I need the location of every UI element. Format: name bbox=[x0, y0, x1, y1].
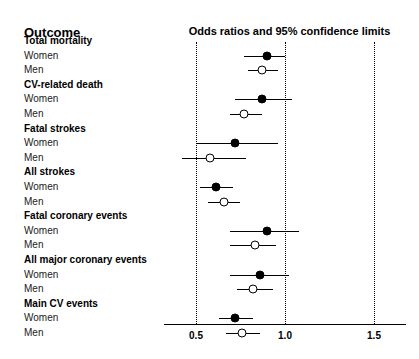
axis-tick-label: 1.5 bbox=[367, 330, 381, 341]
stratum-label: Men bbox=[24, 153, 43, 163]
stratum-label: Men bbox=[24, 109, 43, 119]
outcome-group-label: Fatal strokes bbox=[24, 124, 86, 134]
odds-ratio-marker-filled bbox=[211, 183, 220, 192]
axis-tick-label: 0.5 bbox=[189, 330, 203, 341]
odds-ratio-marker-filled bbox=[256, 270, 265, 279]
stratum-label: Men bbox=[24, 328, 43, 338]
outcome-group-label: CV-related death bbox=[24, 80, 103, 90]
odds-ratio-marker-filled bbox=[231, 139, 240, 148]
outcome-label-column: Outcome Total mortalityWomenMenCV-relate… bbox=[0, 0, 160, 359]
stratum-label: Women bbox=[24, 182, 58, 192]
stratum-label: Women bbox=[24, 313, 58, 323]
stratum-label: Men bbox=[24, 65, 43, 75]
stratum-label: Men bbox=[24, 197, 43, 207]
x-axis-line bbox=[164, 324, 406, 325]
odds-ratio-marker-open bbox=[206, 153, 215, 162]
odds-ratio-marker-filled bbox=[263, 51, 272, 60]
outcome-group-label: Fatal coronary events bbox=[24, 211, 127, 221]
odds-ratio-marker-open bbox=[248, 285, 257, 294]
stratum-label: Women bbox=[24, 226, 58, 236]
outcome-group-label: Main CV events bbox=[24, 299, 98, 309]
odds-ratio-marker-open bbox=[240, 110, 249, 119]
outcome-group-label: All major coronary events bbox=[24, 255, 147, 265]
stratum-label: Women bbox=[24, 138, 58, 148]
axis-tick-label: 1.0 bbox=[278, 330, 292, 341]
stratum-label: Men bbox=[24, 284, 43, 294]
forest-plot-figure: Outcome Total mortalityWomenMenCV-relate… bbox=[0, 0, 419, 359]
odds-ratio-marker-open bbox=[220, 197, 229, 206]
stratum-label: Men bbox=[24, 240, 43, 250]
plot-title: Odds ratios and 95% confidence limits bbox=[160, 25, 419, 37]
stratum-label: Women bbox=[24, 270, 58, 280]
odds-ratio-marker-filled bbox=[257, 95, 266, 104]
gridline-1 bbox=[285, 42, 286, 324]
stratum-label: Women bbox=[24, 94, 58, 104]
gridline-0-5 bbox=[196, 42, 197, 324]
odds-ratio-marker-open bbox=[238, 329, 247, 338]
odds-ratio-marker-open bbox=[250, 241, 259, 250]
stratum-label: Women bbox=[24, 51, 58, 61]
odds-ratio-marker-filled bbox=[263, 226, 272, 235]
outcome-group-label: Total mortality bbox=[24, 36, 92, 46]
odds-ratio-marker-open bbox=[257, 66, 266, 75]
plot-area: Odds ratios and 95% confidence limits 0.… bbox=[160, 0, 419, 359]
outcome-group-label: All strokes bbox=[24, 167, 75, 177]
gridline-1-5 bbox=[374, 42, 375, 324]
odds-ratio-marker-filled bbox=[231, 314, 240, 323]
